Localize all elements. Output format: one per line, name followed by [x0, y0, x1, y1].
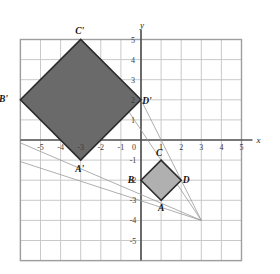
x-tick--1: -1 [118, 143, 125, 152]
y-tick-4: 4 [131, 56, 135, 65]
x-tick--4: -4 [57, 143, 64, 152]
coordinate-plane-svg: xy-5-4-3-2-101234554321-1-2-3-4-5ABCDA'B… [0, 0, 280, 274]
vertex-label-C: C [156, 148, 163, 158]
x-tick-3: 3 [199, 143, 203, 152]
x-tick--2: -2 [97, 143, 104, 152]
vertex-label-D: D [182, 175, 190, 185]
y-tick--1: -1 [130, 156, 137, 165]
y-tick-1: 1 [131, 116, 135, 125]
y-tick-3: 3 [131, 76, 135, 85]
y-axis-label: y [139, 20, 144, 30]
vertex-label-C-prime: C' [75, 26, 84, 36]
y-tick--3: -3 [130, 196, 137, 205]
y-tick-2: 2 [131, 96, 135, 105]
y-tick--4: -4 [130, 216, 137, 225]
x-tick--5: -5 [37, 143, 44, 152]
x-tick-0: 0 [132, 143, 136, 152]
vertex-label-A-prime: A' [74, 164, 84, 174]
vertex-label-A: A [157, 203, 164, 213]
vertex-label-B-prime: B' [0, 94, 8, 104]
y-tick--5: -5 [130, 237, 137, 246]
vertex-label-B: B [127, 175, 134, 185]
vertex-label-D-prime: D' [141, 96, 152, 106]
x-tick-4: 4 [219, 143, 223, 152]
y-tick-5: 5 [131, 36, 135, 45]
x-tick-5: 5 [240, 143, 244, 152]
x-axis-label: x [256, 135, 261, 145]
figure-canvas: xy-5-4-3-2-101234554321-1-2-3-4-5ABCDA'B… [0, 0, 280, 274]
x-tick--3: -3 [77, 143, 84, 152]
x-tick-2: 2 [179, 143, 183, 152]
